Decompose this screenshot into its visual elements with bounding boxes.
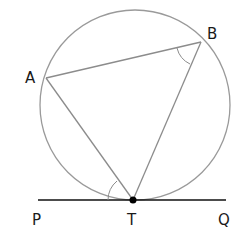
- chord-bt: [133, 42, 201, 200]
- chord-ab: [46, 42, 201, 78]
- alternate-segment-diagram: A B P T Q: [0, 0, 250, 238]
- point-t: [130, 197, 137, 204]
- circle: [40, 10, 230, 200]
- label-b: B: [207, 25, 217, 43]
- chord-at: [46, 78, 133, 200]
- label-q: Q: [218, 211, 230, 229]
- angle-mark-b: [177, 48, 190, 64]
- label-t: T: [126, 211, 137, 229]
- label-a: A: [25, 69, 36, 87]
- label-p: P: [32, 211, 41, 229]
